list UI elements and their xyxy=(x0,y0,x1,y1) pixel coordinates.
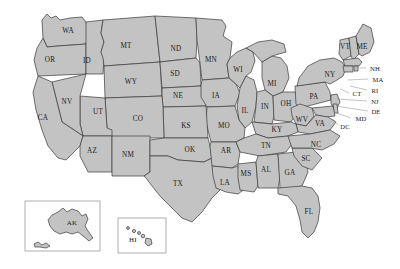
state-label-WI[interactable]: WI xyxy=(233,66,243,74)
state-shape-CT[interactable] xyxy=(343,66,353,72)
state-label-MN[interactable]: MN xyxy=(205,56,217,64)
state-label-MS[interactable]: MS xyxy=(241,170,252,178)
state-label-DC[interactable]: DC xyxy=(340,123,350,130)
state-label-SD[interactable]: SD xyxy=(170,70,180,78)
state-label-OR[interactable]: OR xyxy=(45,56,55,64)
state-label-LA[interactable]: LA xyxy=(220,179,230,187)
state-label-KS[interactable]: KS xyxy=(181,122,191,130)
leader-line-DE xyxy=(336,106,368,111)
state-label-NY[interactable]: NY xyxy=(325,71,336,79)
state-label-OK[interactable]: OK xyxy=(185,146,196,154)
state-label-WV[interactable]: WV xyxy=(296,116,308,124)
state-label-UT[interactable]: UT xyxy=(93,108,103,116)
state-label-ND[interactable]: ND xyxy=(171,45,182,53)
state-shape-HI-oahu[interactable] xyxy=(132,229,135,232)
state-label-NJ[interactable]: NJ xyxy=(371,98,379,105)
state-shape-FL[interactable] xyxy=(278,186,320,238)
state-label-MO[interactable]: MO xyxy=(218,122,230,130)
state-label-MT[interactable]: MT xyxy=(120,42,131,50)
state-shape-SD[interactable] xyxy=(160,58,201,88)
state-label-NM[interactable]: NM xyxy=(122,151,134,159)
map-canvas xyxy=(0,0,400,269)
leader-line-MD xyxy=(334,112,351,118)
state-shape-HI-molokai[interactable] xyxy=(138,232,141,235)
state-label-MA[interactable]: MA xyxy=(372,76,383,83)
state-shape-MT[interactable] xyxy=(101,16,160,66)
state-shape-HI-maui[interactable] xyxy=(141,234,145,238)
state-label-CO[interactable]: CO xyxy=(133,115,143,123)
state-label-KY[interactable]: KY xyxy=(272,126,283,134)
state-label-ME[interactable]: ME xyxy=(356,43,367,51)
state-label-NE[interactable]: NE xyxy=(173,92,183,100)
state-shape-MN[interactable] xyxy=(196,18,232,80)
state-label-TN[interactable]: TN xyxy=(261,142,271,150)
leader-line-CT xyxy=(340,89,349,93)
state-label-TX[interactable]: TX xyxy=(173,180,183,188)
state-label-WY[interactable]: WY xyxy=(125,78,137,86)
state-shape-NE[interactable] xyxy=(162,86,207,107)
state-label-MD[interactable]: MD xyxy=(355,115,366,122)
state-label-DE[interactable]: DE xyxy=(371,108,380,115)
state-shape-MI[interactable] xyxy=(262,56,289,96)
state-shape-NY[interactable] xyxy=(297,58,346,86)
state-label-WA[interactable]: WA xyxy=(62,27,74,35)
state-shape-TX[interactable] xyxy=(144,156,222,222)
state-label-NV[interactable]: NV xyxy=(62,98,73,106)
state-label-IL[interactable]: IL xyxy=(241,107,248,115)
leader-line-MA xyxy=(348,79,368,80)
state-label-MI[interactable]: MI xyxy=(267,80,276,88)
state-label-VT[interactable]: VT xyxy=(340,43,350,51)
state-label-CA[interactable]: CA xyxy=(38,114,48,122)
state-shape-ID[interactable] xyxy=(86,20,104,74)
state-label-AL[interactable]: AL xyxy=(261,166,271,174)
state-label-AK[interactable]: AK xyxy=(67,219,78,227)
state-shape-AR[interactable] xyxy=(210,142,240,168)
state-label-HI[interactable]: HI xyxy=(129,236,137,244)
state-label-IN[interactable]: IN xyxy=(261,103,269,111)
state-label-PA[interactable]: PA xyxy=(310,93,319,101)
state-label-SC[interactable]: SC xyxy=(301,155,310,163)
us-state-map: WAORIDMTNDMNWIMISDWYNEIAILINOHPANYVTMENV… xyxy=(0,0,400,269)
state-label-RI[interactable]: RI xyxy=(372,87,379,94)
state-label-FL[interactable]: FL xyxy=(305,208,314,216)
state-label-ID[interactable]: ID xyxy=(83,57,91,65)
state-label-AZ[interactable]: AZ xyxy=(87,147,97,155)
state-label-IA[interactable]: IA xyxy=(212,92,220,100)
state-label-NH[interactable]: NH xyxy=(370,65,380,72)
state-label-GA[interactable]: GA xyxy=(285,169,296,177)
state-label-VA[interactable]: VA xyxy=(315,120,325,128)
state-shape-ME[interactable] xyxy=(356,24,374,56)
leader-line-NJ xyxy=(337,99,367,101)
state-shape-MA[interactable] xyxy=(343,58,362,66)
state-label-OH[interactable]: OH xyxy=(281,100,292,108)
state-label-NC[interactable]: NC xyxy=(311,141,321,149)
state-shape-RI[interactable] xyxy=(354,66,358,71)
state-shape-ND[interactable] xyxy=(155,16,197,62)
state-shape-HI-kauai[interactable] xyxy=(127,227,130,230)
state-label-CT[interactable]: CT xyxy=(353,90,362,97)
state-label-AR[interactable]: AR xyxy=(221,147,231,155)
